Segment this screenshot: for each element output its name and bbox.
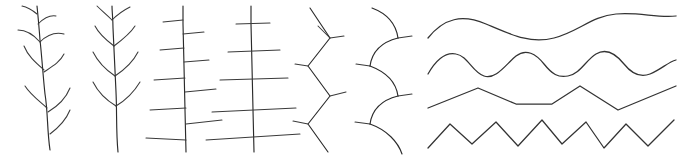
stimuli-svg bbox=[0, 0, 689, 158]
figure-canvas bbox=[0, 0, 689, 158]
